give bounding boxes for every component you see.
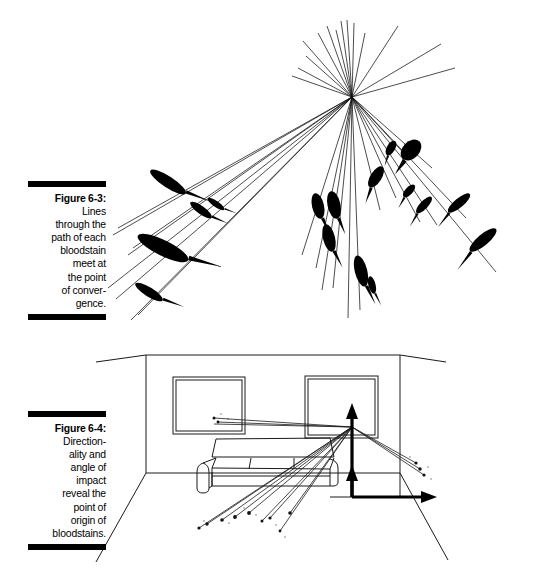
- caption-rule-top: [28, 411, 106, 417]
- trajectory-lines: [108, 20, 496, 320]
- figure-6-4: Figure 6-4: Direction- ality and angle o…: [0, 345, 540, 585]
- caption-rule-bottom: [28, 314, 106, 320]
- caption-line: Lines: [28, 205, 106, 218]
- figure-6-3: Figure 6-3: Lines through the path of ea…: [0, 0, 540, 345]
- caption-body: Lines through the path of each bloodstai…: [28, 205, 106, 310]
- figure-6-4-caption: Figure 6-4: Direction- ality and angle o…: [28, 411, 106, 550]
- caption-line: through the: [28, 218, 106, 231]
- caption-rule-bottom: [28, 544, 106, 550]
- caption-line: the point: [28, 271, 106, 284]
- page-canvas: Figure 6-3: Lines through the path of ea…: [0, 0, 540, 585]
- caption-line: origin of: [28, 514, 106, 527]
- figure-6-3-caption: Figure 6-3: Lines through the path of ea…: [28, 181, 106, 320]
- ceiling-line: [96, 355, 446, 362]
- caption-line: bloodstain: [28, 244, 106, 257]
- caption-text: Figure 6-4: Direction- ality and angle o…: [28, 422, 106, 540]
- caption-line: path of each: [28, 231, 106, 244]
- caption-line: impact: [28, 474, 106, 487]
- figure-label: Figure 6-3:: [28, 192, 106, 205]
- caption-text: Figure 6-3: Lines through the path of ea…: [28, 192, 106, 310]
- caption-body: Direction- ality and angle of impact rev…: [28, 435, 106, 540]
- caption-line: point of: [28, 501, 106, 514]
- caption-line: of conver-: [28, 284, 106, 297]
- caption-line: angle of: [28, 461, 106, 474]
- caption-line: gence.: [28, 297, 106, 310]
- caption-line: reveal the: [28, 487, 106, 500]
- caption-rule-top: [28, 181, 106, 187]
- figure-label: Figure 6-4:: [28, 422, 106, 435]
- caption-line: meet at: [28, 257, 106, 270]
- caption-line: Direction-: [28, 435, 106, 448]
- caption-line: ality and: [28, 448, 106, 461]
- caption-line: bloodstains.: [28, 527, 106, 540]
